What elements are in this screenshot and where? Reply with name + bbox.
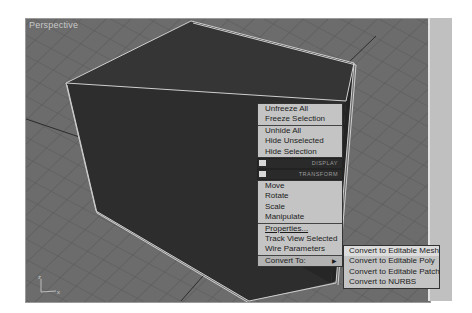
display-quadrant: Unfreeze All Freeze Selection Unhide All… <box>257 103 343 158</box>
convert-to-submenu: Convert to Editable Mesh Convert to Edit… <box>343 245 440 289</box>
menu-item-unfreeze-all[interactable]: Unfreeze All <box>258 104 342 114</box>
submenu-item-nurbs[interactable]: Convert to NURBS <box>344 277 439 287</box>
menu-item-freeze-selection[interactable]: Freeze Selection <box>258 114 342 124</box>
menu-item-scale[interactable]: Scale <box>258 202 342 212</box>
transform-quadrant: Move Rotate Scale Manipulate Properties.… <box>257 180 343 267</box>
display-quadrant-header[interactable]: DISPLAY <box>257 158 343 169</box>
menu-item-convert-to[interactable]: Convert To: ▶ <box>258 256 342 266</box>
menu-item-move[interactable]: Move <box>258 181 342 191</box>
menu-item-track-view-selected[interactable]: Track View Selected <box>258 234 342 244</box>
quadrant-swatch-icon <box>259 160 266 166</box>
quad-menu: Unfreeze All Freeze Selection Unhide All… <box>257 103 343 267</box>
menu-item-manipulate[interactable]: Manipulate <box>258 212 342 222</box>
display-header-label: DISPLAY <box>312 159 338 167</box>
transform-header-label: TRANSFORM <box>299 170 338 178</box>
menu-item-unhide-all[interactable]: Unhide All <box>258 126 342 136</box>
submenu-item-editable-poly[interactable]: Convert to Editable Poly <box>344 256 439 266</box>
quadrant-swatch-icon <box>259 171 266 177</box>
transform-quadrant-header[interactable]: TRANSFORM <box>257 169 343 180</box>
submenu-item-editable-patch[interactable]: Convert to Editable Patch <box>344 267 439 277</box>
svg-text:z: z <box>38 274 41 280</box>
menu-item-rotate[interactable]: Rotate <box>258 191 342 201</box>
svg-text:x: x <box>57 289 60 295</box>
submenu-item-editable-mesh[interactable]: Convert to Editable Mesh <box>344 246 439 256</box>
menu-item-hide-unselected[interactable]: Hide Unselected <box>258 136 342 146</box>
menu-item-properties[interactable]: Properties... <box>258 224 342 234</box>
menu-item-wire-parameters[interactable]: Wire Parameters <box>258 244 342 254</box>
convert-to-label: Convert To: <box>265 256 306 265</box>
axis-tripod-icon: z x <box>36 274 66 296</box>
submenu-arrow-icon: ▶ <box>332 256 337 266</box>
viewport-label[interactable]: Perspective <box>29 20 78 30</box>
menu-item-hide-selection[interactable]: Hide Selection <box>258 147 342 157</box>
